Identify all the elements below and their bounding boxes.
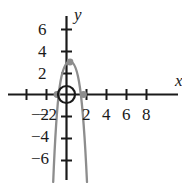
x-tick-label-8: 8 — [142, 106, 151, 123]
x-axis-label: x — [175, 72, 182, 89]
y-tick-label-neg4: −4 — [31, 128, 49, 145]
vertex-dot-marker — [67, 59, 74, 66]
parabola-plot — [0, 0, 182, 183]
y-tick-label-2: 2 — [38, 65, 47, 82]
x-tick-label-2: 2 — [82, 106, 91, 123]
x-tick-label-6: 6 — [122, 106, 131, 123]
right-root-dot-marker — [80, 91, 87, 98]
y-axis-label: y — [74, 6, 82, 23]
x-tick-label-neg2: −2 — [39, 106, 57, 123]
y-tick-label-6: 6 — [38, 21, 47, 38]
x-tick-label-4: 4 — [102, 106, 111, 123]
y-tick-label-4: 4 — [38, 43, 47, 60]
y-tick-label-neg6: −6 — [31, 150, 49, 167]
graph-figure: 6 4 2 −2 −4 −6 −2 2 4 6 8 y x — [0, 0, 182, 183]
